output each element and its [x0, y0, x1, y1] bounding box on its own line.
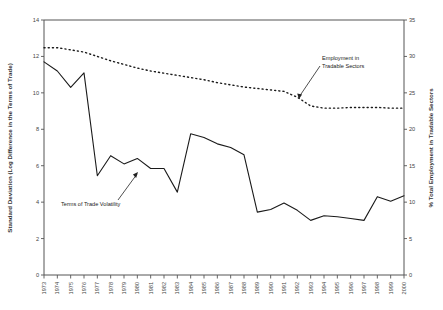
employment-annotation-line1: Employment in: [322, 55, 359, 61]
left-axis-title: Standard Deviation (Log Difference in th…: [6, 63, 13, 232]
series-line-terms-of-trade-volatility: [44, 62, 404, 220]
x-tick-label: 1975: [68, 282, 74, 294]
x-tick-label: 1973: [41, 282, 47, 294]
left-tick-label: 0: [36, 272, 39, 278]
x-tick-label: 1992: [294, 282, 300, 294]
x-tick-label: 1993: [308, 282, 314, 294]
x-tick-label: 1987: [228, 282, 234, 294]
x-tick-label: 1983: [174, 282, 180, 294]
right-axis-ticks: 05101520253035: [404, 17, 415, 278]
x-tick-label: 1978: [108, 282, 114, 294]
x-tick-label: 1979: [121, 282, 127, 294]
x-tick-label: 1988: [241, 282, 247, 294]
right-tick-label: 25: [409, 90, 415, 96]
x-tick-label: 1998: [374, 282, 380, 294]
chart-canvas: 02468101214 05101520253035 1973197419751…: [0, 0, 443, 310]
x-tick-label: 1977: [94, 282, 100, 294]
right-axis-title: % Total Employment in Tradable Sectors: [427, 88, 434, 208]
x-tick-label: 1995: [334, 282, 340, 294]
employment-annotation-line2: Tradable Sectors: [322, 63, 365, 69]
right-tick-label: 35: [409, 17, 415, 23]
volatility-annotation-leader: [118, 174, 137, 200]
right-tick-label: 10: [409, 199, 415, 205]
right-tick-label: 20: [409, 126, 415, 132]
left-tick-label: 14: [33, 17, 39, 23]
x-tick-label: 1994: [321, 282, 327, 294]
x-tick-label: 1982: [161, 282, 167, 294]
volatility-annotation: Terms of Trade Volatility: [61, 172, 138, 207]
x-tick-label: 1990: [268, 282, 274, 294]
series-layer: [44, 48, 404, 221]
x-tick-label: 1997: [361, 282, 367, 294]
chart-figure: 02468101214 05101520253035 1973197419751…: [0, 0, 443, 310]
left-tick-label: 12: [33, 53, 39, 59]
x-axis-ticks: 1973197419751976197719781979198019811982…: [41, 275, 407, 294]
right-tick-label: 15: [409, 163, 415, 169]
right-tick-label: 0: [409, 272, 412, 278]
left-tick-label: 6: [36, 163, 39, 169]
x-tick-label: 1974: [54, 282, 60, 294]
x-tick-label: 1980: [134, 282, 140, 294]
left-axis-ticks: 02468101214: [33, 17, 44, 278]
x-tick-label: 1991: [281, 282, 287, 294]
employment-annotation-leader: [299, 66, 320, 97]
left-tick-label: 4: [36, 199, 39, 205]
x-tick-label: 1976: [81, 282, 87, 294]
left-tick-label: 2: [36, 236, 39, 242]
x-tick-label: 1985: [201, 282, 207, 294]
x-tick-label: 1999: [388, 282, 394, 294]
volatility-annotation-line1: Terms of Trade Volatility: [61, 201, 121, 207]
left-tick-label: 10: [33, 90, 39, 96]
right-tick-label: 5: [409, 236, 412, 242]
employment-annotation: Employment in Tradable Sectors: [297, 55, 364, 99]
x-tick-label: 1996: [348, 282, 354, 294]
right-tick-label: 30: [409, 53, 415, 59]
x-tick-label: 1984: [188, 282, 194, 294]
volatility-annotation-arrowhead: [133, 172, 138, 178]
left-tick-label: 8: [36, 126, 39, 132]
x-tick-label: 1981: [148, 282, 154, 294]
x-tick-label: 1986: [214, 282, 220, 294]
x-tick-label: 1989: [254, 282, 260, 294]
x-tick-label: 2000: [401, 282, 407, 294]
